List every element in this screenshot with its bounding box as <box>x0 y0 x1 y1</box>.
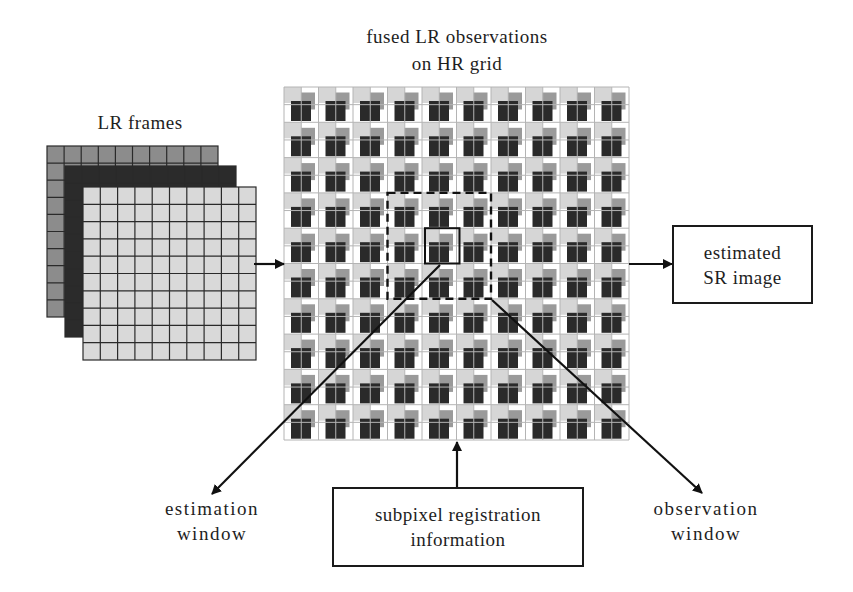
lr-sample-light <box>595 87 612 103</box>
lr-sample-light <box>526 122 543 138</box>
lr-sample-light <box>526 369 543 385</box>
lr-sample-light <box>388 299 405 315</box>
hr-grid-title: fused LR observations on HR grid <box>307 24 607 76</box>
registration-box-line2: information <box>410 527 505 552</box>
lr-sample-light <box>560 122 577 138</box>
lr-sample-light <box>595 122 612 138</box>
lr-sample-light <box>560 334 577 350</box>
lr-sample-light <box>284 369 301 385</box>
lr-sample-light <box>353 405 370 421</box>
lr-sample-light <box>491 334 508 350</box>
lr-sample-light <box>284 193 301 209</box>
lr-sample-light <box>526 334 543 350</box>
lr-frame-3 <box>83 187 256 360</box>
lr-sample-light <box>491 122 508 138</box>
lr-sample-light <box>388 122 405 138</box>
lr-sample-light <box>491 193 508 209</box>
lr-sample-light <box>388 369 405 385</box>
lr-sample-light <box>422 122 439 138</box>
lr-sample-light <box>595 228 612 244</box>
lr-sample-light <box>319 87 336 103</box>
hr-grid-title-line1: fused LR observations <box>307 24 607 49</box>
lr-sample-light <box>595 299 612 315</box>
lr-sample-light <box>284 264 301 280</box>
lr-sample-light <box>388 193 405 209</box>
lr-sample-light <box>353 122 370 138</box>
lr-sample-light <box>491 369 508 385</box>
lr-sample-light <box>422 299 439 315</box>
lr-sample-light <box>353 264 370 280</box>
lr-frames-stack <box>47 146 256 360</box>
lr-sample-light <box>388 334 405 350</box>
diagram-canvas: fused LR observations on HR grid LR fram… <box>0 0 853 592</box>
lr-sample-light <box>388 87 405 103</box>
lr-sample-light <box>491 264 508 280</box>
lr-frames-label-text: LR frames <box>60 110 220 135</box>
observation-label-line1: observation <box>626 496 786 521</box>
lr-sample-light <box>457 334 474 350</box>
lr-sample-light <box>595 369 612 385</box>
lr-sample-light <box>319 334 336 350</box>
lr-sample-light <box>422 193 439 209</box>
lr-sample-light <box>284 228 301 244</box>
lr-sample-light <box>319 122 336 138</box>
lr-sample-light <box>595 334 612 350</box>
lr-sample-light <box>319 228 336 244</box>
sr-box-line1: estimated <box>704 240 781 265</box>
registration-box-line1: subpixel registration <box>375 502 541 527</box>
subpixel-registration-box: subpixel registration information <box>332 487 584 567</box>
lr-sample-light <box>491 405 508 421</box>
lr-sample-light <box>284 299 301 315</box>
lr-sample-light <box>457 405 474 421</box>
lr-sample-light <box>457 299 474 315</box>
observation-label-line2: window <box>626 521 786 546</box>
lr-sample-light <box>284 122 301 138</box>
lr-sample-light <box>422 264 439 280</box>
lr-sample-light <box>526 264 543 280</box>
lr-sample-light <box>319 299 336 315</box>
lr-sample-light <box>353 87 370 103</box>
lr-sample-light <box>457 264 474 280</box>
lr-sample-light <box>284 158 301 174</box>
lr-sample-light <box>284 334 301 350</box>
lr-sample-light <box>560 264 577 280</box>
lr-sample-light <box>560 228 577 244</box>
lr-sample-light <box>595 193 612 209</box>
lr-sample-light <box>284 87 301 103</box>
lr-sample-light <box>560 87 577 103</box>
lr-sample-light <box>353 299 370 315</box>
lr-sample-light <box>422 158 439 174</box>
estimated-sr-image-box: estimated SR image <box>672 225 813 304</box>
lr-sample-light <box>491 158 508 174</box>
lr-sample-light <box>353 158 370 174</box>
lr-sample-light <box>457 122 474 138</box>
lr-sample-light <box>353 193 370 209</box>
lr-sample-light <box>560 299 577 315</box>
lr-sample-light <box>319 264 336 280</box>
lr-sample-light <box>457 369 474 385</box>
lr-sample-light <box>526 228 543 244</box>
lr-sample-light <box>319 158 336 174</box>
lr-sample-light <box>388 158 405 174</box>
lr-frames-label: LR frames <box>60 110 220 135</box>
lr-sample-light <box>457 193 474 209</box>
lr-sample-light <box>526 158 543 174</box>
lr-sample-light <box>388 264 405 280</box>
lr-sample-light <box>422 334 439 350</box>
lr-sample-light <box>319 193 336 209</box>
lr-sample-light <box>491 87 508 103</box>
lr-sample-light <box>388 405 405 421</box>
lr-sample-light <box>457 87 474 103</box>
lr-sample-light <box>422 405 439 421</box>
lr-sample-light <box>457 158 474 174</box>
lr-sample-light <box>595 158 612 174</box>
estimation-label-line2: window <box>132 521 292 546</box>
lr-sample-light <box>319 405 336 421</box>
estimation-label-line1: estimation <box>132 496 292 521</box>
lr-sample-light <box>422 87 439 103</box>
lr-sample-light <box>353 228 370 244</box>
lr-sample-light <box>560 158 577 174</box>
lr-sample-light <box>560 405 577 421</box>
lr-sample-light <box>491 228 508 244</box>
lr-sample-light <box>526 299 543 315</box>
